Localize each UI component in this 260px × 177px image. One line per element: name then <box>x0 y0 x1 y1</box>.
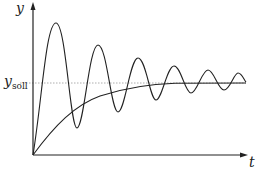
setpoint-label-main: y <box>4 73 12 89</box>
y-axis-arrow-icon <box>31 2 36 10</box>
overdamped-curve <box>33 83 246 155</box>
underdamped-curve <box>33 23 246 155</box>
y-axis-label: y <box>16 0 24 16</box>
x-axis-arrow-icon <box>240 153 248 158</box>
x-axis-label: t <box>249 154 255 170</box>
step-response-diagram <box>0 0 260 177</box>
setpoint-label-sub: soll <box>12 81 28 91</box>
setpoint-label: ysoll <box>4 73 28 91</box>
